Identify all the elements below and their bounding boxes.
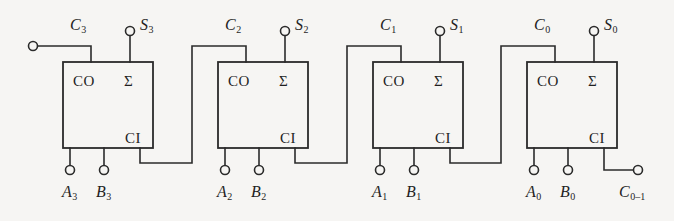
label-b2: B2 <box>251 184 266 200</box>
label-s2: S2 <box>295 17 308 33</box>
label-carry-in: C0–1 <box>619 184 645 200</box>
label-b0-sub: 0 <box>570 191 575 202</box>
carry-out-port-label-0: CO <box>537 73 559 89</box>
label-c3: C3 <box>70 17 86 33</box>
label-s1: S1 <box>450 17 463 33</box>
adder-stage-0: CO Σ CI <box>527 27 643 175</box>
carry-chain-wire-0-to-1 <box>450 46 555 163</box>
sum-terminal-2[interactable] <box>281 27 290 36</box>
carry-out-port-label-1: CO <box>383 73 405 89</box>
label-s3-sub: 3 <box>149 24 154 35</box>
label-s1-sub: 1 <box>459 24 464 35</box>
label-s2-base: S <box>295 16 303 33</box>
input-b-terminal-3[interactable] <box>100 166 109 175</box>
label-a2-sub: 2 <box>227 191 232 202</box>
sum-port-label-3: Σ <box>124 73 133 89</box>
label-s3: S3 <box>140 17 153 33</box>
carry-out-terminal-3[interactable] <box>29 42 38 51</box>
carry-chain-wire-1-to-2 <box>295 46 401 163</box>
carry-out-port-label-2: CO <box>228 73 250 89</box>
label-c2-sub: 2 <box>236 24 241 35</box>
label-a3-base: A <box>62 183 72 200</box>
label-c1-sub: 1 <box>391 24 396 35</box>
label-b2-sub: 2 <box>261 191 266 202</box>
carry-in-port-label-1: CI <box>435 130 451 146</box>
sum-terminal-1[interactable] <box>436 27 445 36</box>
input-a-terminal-0[interactable] <box>530 166 539 175</box>
carry-in-wire-0 <box>604 148 633 170</box>
label-b3: B3 <box>96 184 111 200</box>
label-c2: C2 <box>225 17 241 33</box>
label-b0-base: B <box>560 183 570 200</box>
label-b3-base: B <box>96 183 106 200</box>
label-a3: A3 <box>62 184 77 200</box>
label-c0: C0 <box>534 17 550 33</box>
carry-out-wire-3 <box>38 46 91 62</box>
label-s2-sub: 2 <box>304 24 309 35</box>
carry-chain-wire-2-to-3 <box>140 46 246 163</box>
label-a1: A1 <box>372 184 387 200</box>
label-b1: B1 <box>406 184 421 200</box>
label-b3-sub: 3 <box>106 191 111 202</box>
label-a0-sub: 0 <box>536 191 541 202</box>
label-s3-base: S <box>140 16 148 33</box>
label-b1-base: B <box>406 183 416 200</box>
carry-in-port-label-0: CI <box>589 130 605 146</box>
label-carry-in-base: C <box>619 183 630 200</box>
label-a3-sub: 3 <box>72 191 77 202</box>
label-a0-base: A <box>526 183 536 200</box>
label-c2-base: C <box>225 16 236 33</box>
label-c0-sub: 0 <box>545 24 550 35</box>
input-a-terminal-1[interactable] <box>376 166 385 175</box>
label-s0-base: S <box>604 16 612 33</box>
label-c1: C1 <box>380 17 396 33</box>
label-b1-sub: 1 <box>416 191 421 202</box>
label-a2: A2 <box>217 184 232 200</box>
label-b2-base: B <box>251 183 261 200</box>
sum-terminal-3[interactable] <box>126 27 135 36</box>
carry-in-terminal-0[interactable] <box>634 166 643 175</box>
circuit-diagram: CO Σ CI CO Σ CI <box>0 0 674 221</box>
label-c3-base: C <box>70 16 81 33</box>
sum-port-label-1: Σ <box>434 73 443 89</box>
input-a-terminal-2[interactable] <box>221 166 230 175</box>
input-b-terminal-1[interactable] <box>410 166 419 175</box>
carry-in-port-label-2: CI <box>280 130 296 146</box>
input-b-terminal-0[interactable] <box>564 166 573 175</box>
label-c3-sub: 3 <box>81 24 86 35</box>
label-carry-in-sub: 0–1 <box>630 191 645 202</box>
label-c0-base: C <box>534 16 545 33</box>
label-a2-base: A <box>217 183 227 200</box>
carry-out-port-label-3: CO <box>73 73 95 89</box>
label-s0: S0 <box>604 17 617 33</box>
adder-stage-3: CO Σ CI <box>29 27 154 175</box>
label-a0: A0 <box>526 184 541 200</box>
input-a-terminal-3[interactable] <box>66 166 75 175</box>
sum-port-label-2: Σ <box>279 73 288 89</box>
label-s0-sub: 0 <box>613 24 618 35</box>
label-a1-base: A <box>372 183 382 200</box>
sum-terminal-0[interactable] <box>590 27 599 36</box>
label-s1-base: S <box>450 16 458 33</box>
sum-port-label-0: Σ <box>588 73 597 89</box>
carry-in-port-label-3: CI <box>125 130 141 146</box>
label-c1-base: C <box>380 16 391 33</box>
input-b-terminal-2[interactable] <box>255 166 264 175</box>
label-b0: B0 <box>560 184 575 200</box>
label-a1-sub: 1 <box>382 191 387 202</box>
